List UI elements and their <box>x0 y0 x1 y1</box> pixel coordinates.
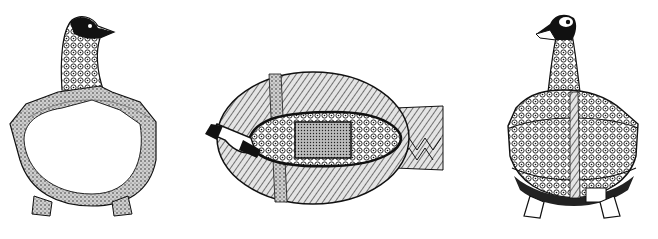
duck-vessel-section-drawing <box>0 0 180 239</box>
duck-vessel-side-drawing <box>490 0 658 239</box>
duck-vessel-top-drawing <box>195 0 450 239</box>
